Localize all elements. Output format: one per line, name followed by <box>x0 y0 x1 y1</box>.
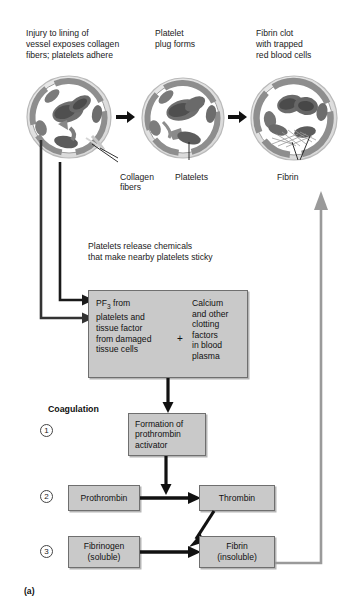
stage-1-caption: Injury to lining of vessel exposes colla… <box>26 28 161 62</box>
reactant-left-text: PF3 from platelets and tissue factor fro… <box>96 298 172 355</box>
box-fibrinogen-label: Fibrinogen (soluble) <box>69 537 139 567</box>
box-fibrinogen: Fibrinogen (soluble) <box>68 536 140 568</box>
stage-arrow-1-to-2 <box>116 110 136 124</box>
reactant-pf-prefix: PF <box>96 298 107 308</box>
stage-3-caption: Fibrin clot with trapped red blood cells <box>256 28 346 62</box>
label-platelets: Platelets <box>175 172 208 182</box>
reactant-right-text: Calcium and other clotting factors in bl… <box>192 298 247 362</box>
box-fibrin-label: Fibrin (insoluble) <box>200 537 274 567</box>
vessel-illustration-platelet-plug <box>139 74 229 162</box>
step-number-2: 2 <box>40 490 53 503</box>
arrow-reactants-to-step1 <box>162 378 176 414</box>
reactant-box: PF3 from platelets and tissue factor fro… <box>88 290 248 378</box>
box-prothrombin-activator-label: Formation of prothrombin activator <box>129 414 205 455</box>
step-number-3: 3 <box>40 545 53 558</box>
box-fibrin: Fibrin (insoluble) <box>199 536 275 568</box>
box-prothrombin: Prothrombin <box>68 485 140 511</box>
box-prothrombin-activator: Formation of prothrombin activator <box>128 413 206 456</box>
coagulation-heading: Coagulation <box>48 404 99 414</box>
label-collagen-fibers: Collagen fibers <box>120 172 154 193</box>
vessel-illustration-fibrin-clot <box>248 72 342 164</box>
figure-caption: (a) <box>24 586 35 596</box>
box-thrombin-label: Thrombin <box>200 486 274 510</box>
box-prothrombin-label: Prothrombin <box>69 486 139 510</box>
label-fibrin: Fibrin <box>277 172 299 182</box>
clotting-figure: Injury to lining of vessel exposes colla… <box>0 0 347 615</box>
platelet-release-text: Platelets release chemicals that make ne… <box>88 241 298 264</box>
arrow-fibrinogen-to-fibrin <box>140 544 202 560</box>
feedback-arrow-fibrin-to-clot <box>273 188 339 563</box>
box-thrombin: Thrombin <box>199 485 275 511</box>
arrow-prothrombin-to-thrombin <box>140 490 202 506</box>
stage-arrow-2-to-3 <box>228 110 248 124</box>
reactant-plus-operator: + <box>177 333 183 344</box>
step-number-1: 1 <box>40 424 53 437</box>
stage-2-caption: Platelet plug forms <box>155 28 245 50</box>
